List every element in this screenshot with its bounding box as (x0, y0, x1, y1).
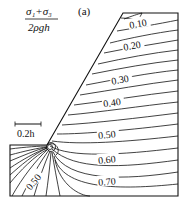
contour-label-050: 0.50 (98, 128, 117, 141)
panel-label: (a) (78, 5, 91, 18)
contour-label-010: 0.10 (128, 17, 147, 31)
scale-bar: 0.2h (15, 122, 41, 140)
domain-outline (10, 13, 178, 196)
scale-bar-label: 0.2h (17, 128, 35, 139)
contour-label-070: 0.70 (98, 175, 116, 187)
formula-numerator: σ₁+σ₃ (26, 5, 52, 17)
contour-label-020: 0.20 (122, 39, 141, 53)
contour-diagram: σ₁+σ₃ 2ρgh (a) 0.2h (0, 0, 188, 207)
formula-denominator: 2ρgh (28, 21, 50, 33)
contour-label-060: 0.60 (98, 153, 117, 166)
contour-label-030: 0.30 (110, 73, 129, 87)
formula: σ₁+σ₃ 2ρgh (25, 5, 58, 33)
contour-label-040: 0.40 (103, 96, 122, 109)
